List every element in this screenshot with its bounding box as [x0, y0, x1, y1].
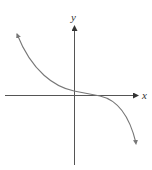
function-graph: y x [0, 0, 152, 170]
function-curve [17, 34, 136, 143]
x-axis-label: x [141, 89, 147, 101]
y-axis-label: y [70, 11, 76, 23]
